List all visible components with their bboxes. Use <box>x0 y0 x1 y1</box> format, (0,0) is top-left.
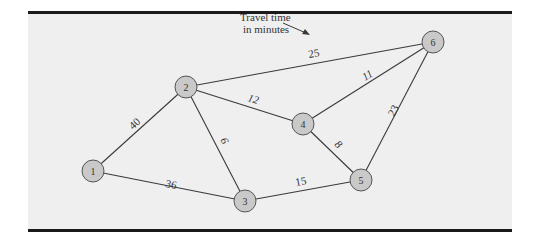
network-diagram: Travel time in minutes 40 36 6 12 25 15 … <box>0 0 535 241</box>
annotation-line2: in minutes <box>243 23 289 35</box>
node-1-label: 1 <box>91 166 96 177</box>
bottom-border <box>28 229 512 232</box>
annotation-line1: Travel time <box>240 11 291 23</box>
node-4-label: 4 <box>301 119 306 130</box>
node-6-label: 6 <box>431 37 436 48</box>
node-3-label: 3 <box>243 196 248 207</box>
node-5-label: 5 <box>359 175 364 186</box>
node-2-label: 2 <box>184 82 189 93</box>
